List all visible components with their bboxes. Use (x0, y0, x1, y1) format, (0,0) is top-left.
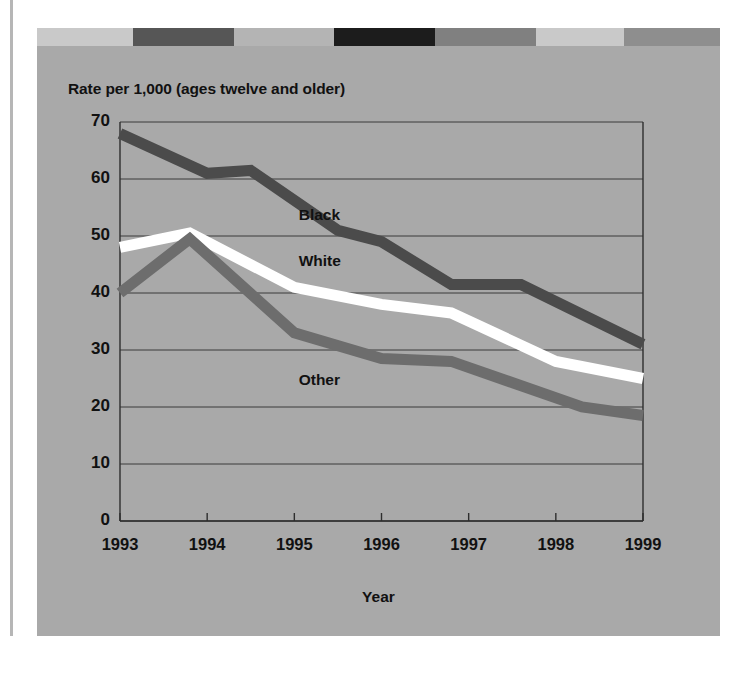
series-label-black: Black (299, 206, 340, 224)
series-label-other: Other (299, 371, 340, 389)
plot-area: 010203040506070 199319941995199619971998… (37, 28, 720, 636)
series-label-white: White (299, 252, 341, 270)
figure-panel: Rate per 1,000 (ages twelve and older) 0… (37, 28, 720, 636)
faint-page-header (120, 0, 680, 20)
series-inline-labels: BlackWhiteOther (37, 28, 720, 636)
page-gutter-rule (10, 0, 13, 636)
x-axis-title: Year (37, 588, 720, 606)
